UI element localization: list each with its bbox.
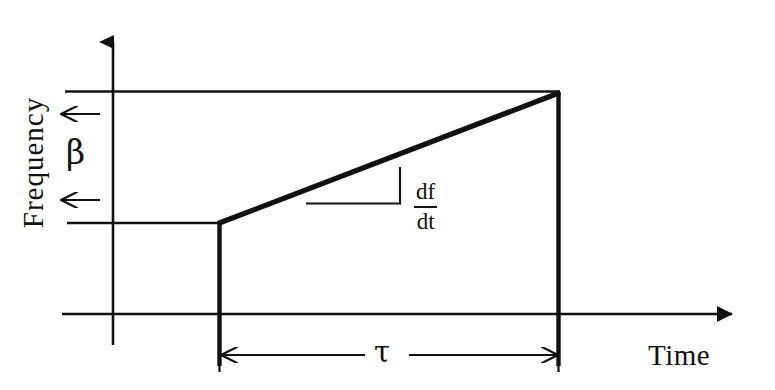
x-axis-label: Time (648, 341, 710, 370)
bandwidth-symbol-label: β (66, 136, 85, 169)
frequency-ramp-group (218, 92, 560, 366)
y-axis-label: Frequency (19, 68, 48, 258)
slope-numerator: df (414, 180, 437, 205)
diagram-canvas (0, 0, 775, 390)
duration-symbol-label: τ (374, 338, 390, 367)
axes-group (62, 42, 732, 345)
slope-derivative-label: df dt (414, 180, 437, 234)
chirp-frequency-diagram: Frequency Time β τ df dt (0, 0, 775, 390)
fraction-bar (414, 206, 437, 208)
slope-denominator: dt (414, 209, 437, 234)
